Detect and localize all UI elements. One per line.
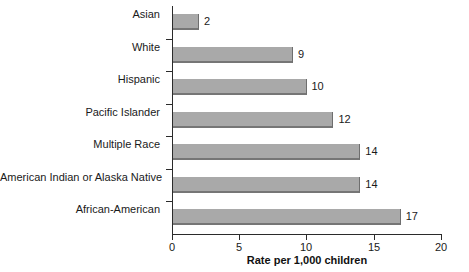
x-axis-tick — [172, 235, 173, 240]
bar-value-multiple-race: 14 — [365, 143, 377, 159]
bar-multiple-race — [172, 144, 360, 160]
bar-american-indian-or-alaska-native — [172, 177, 360, 193]
category-label-multiple-race: Multiple Race — [0, 136, 160, 152]
bar-value-white: 9 — [298, 46, 304, 62]
category-label-american-indian-or-alaska-native: American Indian or Alaska Native — [0, 169, 160, 185]
category-label-pacific-islander: Pacific Islander — [0, 104, 160, 120]
category-axis-labels: Asian White Hispanic Pacific Islander Mu… — [0, 6, 166, 234]
bar-row: 2 — [172, 6, 441, 39]
bar-value-american-indian-or-alaska-native: 14 — [365, 176, 377, 192]
bar-chart: Asian White Hispanic Pacific Islander Mu… — [0, 0, 469, 272]
x-axis-tick — [441, 235, 442, 240]
bar-value-asian: 2 — [204, 13, 210, 29]
bar-white — [172, 47, 293, 63]
y-axis-tick — [166, 136, 172, 137]
bar-row: 14 — [172, 169, 441, 202]
bar-value-hispanic: 10 — [312, 78, 324, 94]
bar-african-american — [172, 209, 401, 225]
x-axis-tick-label-5: 5 — [224, 241, 254, 254]
x-axis-tick-label-0: 0 — [157, 241, 187, 254]
y-axis-tick — [166, 201, 172, 202]
bar-row: 14 — [172, 136, 441, 169]
x-axis-tick-label-10: 10 — [291, 241, 321, 254]
bar-hispanic — [172, 79, 307, 95]
x-axis-tick-label-15: 15 — [359, 241, 389, 254]
y-axis-tick — [166, 39, 172, 40]
bar-row: 12 — [172, 104, 441, 137]
bar-row: 17 — [172, 201, 441, 234]
x-axis-tick — [239, 235, 240, 240]
x-axis-line — [172, 234, 442, 235]
bar-row: 10 — [172, 71, 441, 104]
x-axis-tick-label-20: 20 — [426, 241, 456, 254]
y-axis-line — [172, 6, 173, 235]
category-label-asian: Asian — [0, 6, 160, 22]
category-label-white: White — [0, 39, 160, 55]
x-axis-title: Rate per 1,000 children — [172, 254, 442, 266]
x-axis-tick — [374, 235, 375, 240]
bar-asian — [172, 14, 199, 30]
y-axis-tick — [166, 104, 172, 105]
y-axis-tick — [166, 169, 172, 170]
x-axis-tick — [306, 235, 307, 240]
bar-value-african-american: 17 — [406, 208, 418, 224]
category-label-african-american: African-American — [0, 201, 160, 217]
category-label-hispanic: Hispanic — [0, 71, 160, 87]
plot-area: 2 9 10 12 14 14 17 — [172, 6, 441, 234]
y-axis-tick — [166, 71, 172, 72]
bar-pacific-islander — [172, 112, 333, 128]
bar-row: 9 — [172, 39, 441, 72]
bar-value-pacific-islander: 12 — [338, 111, 350, 127]
